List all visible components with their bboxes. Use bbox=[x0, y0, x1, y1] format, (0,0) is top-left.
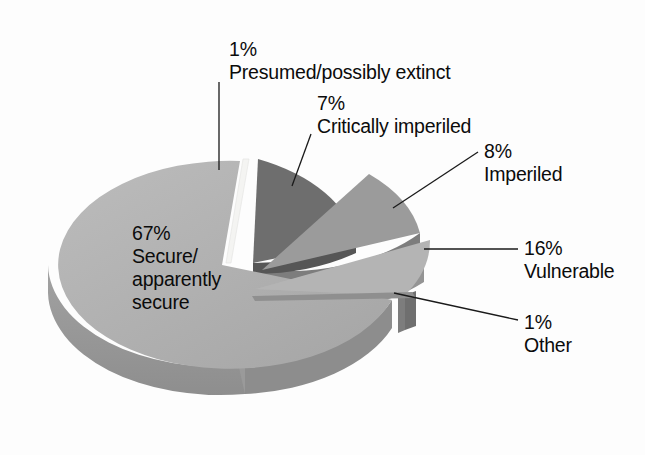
slice-label-vulnerable: 16% Vulnerable bbox=[524, 237, 615, 283]
slice-label-extinct: 1% Presumed/possibly extinct bbox=[229, 38, 451, 84]
slice-label-secure-percent: 67% bbox=[132, 222, 221, 245]
slice-label-critical: 7% Critically imperiled bbox=[317, 92, 471, 138]
slice-label-other-name: Other bbox=[524, 334, 572, 357]
slice-label-secure-name-1: Secure/ bbox=[132, 245, 221, 268]
slice-label-critical-percent: 7% bbox=[317, 92, 471, 115]
slice-label-imperiled-name: Imperiled bbox=[484, 163, 562, 186]
slice-label-extinct-name: Presumed/possibly extinct bbox=[229, 61, 451, 84]
leader-line-imperiled bbox=[393, 152, 478, 208]
slice-label-secure-name-2: apparently bbox=[132, 268, 221, 291]
slice-label-imperiled-percent: 8% bbox=[484, 140, 562, 163]
slice-label-vulnerable-name: Vulnerable bbox=[524, 260, 615, 283]
slice-label-extinct-percent: 1% bbox=[229, 38, 451, 61]
pie-chart: 1% Presumed/possibly extinct 7% Critical… bbox=[0, 0, 645, 455]
slice-label-vulnerable-percent: 16% bbox=[524, 237, 615, 260]
slice-label-critical-name: Critically imperiled bbox=[317, 115, 471, 138]
slice-label-secure: 67% Secure/ apparently secure bbox=[132, 222, 221, 314]
slice-label-other: 1% Other bbox=[524, 311, 572, 357]
slice-label-secure-name-3: secure bbox=[132, 291, 221, 314]
slice-label-other-percent: 1% bbox=[524, 311, 572, 334]
slice-label-imperiled: 8% Imperiled bbox=[484, 140, 562, 186]
